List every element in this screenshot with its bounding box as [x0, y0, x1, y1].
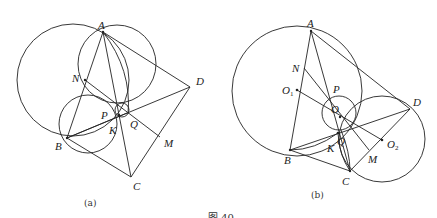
label-P-b: P: [332, 83, 340, 95]
seg-NM-a: [85, 80, 160, 137]
seg-AD-a: [103, 32, 190, 87]
label-D-b: D: [412, 96, 421, 108]
label-C-a: C: [133, 180, 141, 192]
circle-O-small: [322, 96, 356, 130]
label-M-b: M: [367, 153, 378, 165]
point-B-b: [289, 149, 291, 151]
label-P-a: P: [100, 109, 108, 121]
point-N-a: [84, 79, 86, 81]
label-D-a: D: [195, 75, 204, 87]
label-O1: O1: [282, 84, 294, 98]
seg-CD-b: [350, 109, 410, 171]
seg-BC-a: [67, 138, 131, 177]
label-C-b: C: [342, 175, 350, 187]
point-K-a: [118, 114, 120, 116]
seg-BQ-a: [67, 113, 127, 138]
point-O1: [296, 89, 299, 92]
label-B-b: B: [284, 154, 291, 166]
seg-CD-a: [131, 87, 190, 177]
point-O: [339, 116, 341, 118]
point-B-a: [66, 137, 68, 139]
seg-AB-a: [67, 32, 103, 138]
panel-a-label: (a): [84, 198, 96, 208]
point-K-b: [337, 132, 340, 135]
label-B-a: B: [55, 140, 62, 152]
figure-caption: 图 40: [208, 212, 234, 218]
point-C-b: [349, 170, 351, 172]
label-N-a: N: [71, 72, 80, 84]
circle-upper-right-a: [78, 25, 156, 103]
label-A-a: A: [97, 19, 105, 31]
point-A-b: [310, 30, 312, 32]
label-O: O: [331, 103, 339, 115]
label-A-b: A: [306, 17, 314, 29]
label-O2: O2: [387, 138, 399, 152]
panel-b-label: (b): [311, 190, 324, 200]
label-M-a: M: [163, 137, 174, 149]
panel-a: A N D P Q K B C M (a): [17, 19, 204, 208]
label-K-a: K: [108, 124, 117, 136]
geometry-figure: A N D P Q K B C M (a): [0, 0, 437, 218]
label-Q-a: Q: [130, 118, 138, 130]
label-Q-b: Q: [337, 135, 345, 147]
point-A-a: [102, 31, 104, 33]
label-K-b: K: [326, 142, 335, 154]
seg-AD-b: [311, 31, 410, 109]
point-O2: [381, 139, 384, 142]
label-N-b: N: [291, 62, 300, 74]
panel-b: A N O1 P O D Q K O2 M B C (b): [232, 17, 425, 200]
